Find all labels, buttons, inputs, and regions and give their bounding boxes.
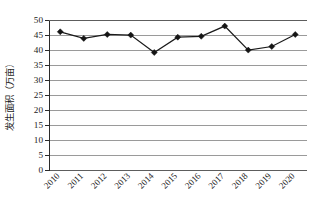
y-tick-label: 35 <box>34 60 44 70</box>
y-tick-label: 25 <box>34 90 44 100</box>
x-tick-label: 2015 <box>159 170 179 190</box>
data-point-marker <box>57 29 63 35</box>
x-tick-label: 2017 <box>206 170 226 190</box>
data-point-marker <box>198 33 204 39</box>
y-tick-label: 5 <box>38 150 43 160</box>
y-tick-label: 15 <box>34 120 44 130</box>
data-point-marker <box>269 44 275 50</box>
x-tick-label: 2018 <box>230 170 250 190</box>
y-tick-label: 40 <box>34 45 44 55</box>
gridlines-group <box>49 21 308 171</box>
y-tick-label: 10 <box>34 135 44 145</box>
x-tick-label: 2012 <box>89 171 109 191</box>
chart-canvas: 05101520253035404550 2010201120122013201… <box>0 0 313 204</box>
x-tick-label: 2019 <box>253 170 273 190</box>
x-tick-label: 2010 <box>42 170 62 190</box>
x-tick-label: 2013 <box>112 170 132 190</box>
ytick-labels-group: 05101520253035404550 <box>34 15 44 175</box>
y-tick-label: 20 <box>34 105 44 115</box>
y-axis-title: 发生面积（万亩） <box>4 59 15 131</box>
y-tick-label: 30 <box>34 75 44 85</box>
y-tick-label: 50 <box>34 15 44 25</box>
x-tick-label: 2016 <box>183 170 203 190</box>
x-tick-label: 2020 <box>277 170 297 190</box>
data-point-marker <box>292 32 298 38</box>
y-axis-title-group: 发生面积（万亩） <box>4 59 15 131</box>
data-point-marker <box>81 35 87 41</box>
x-tick-label: 2011 <box>66 171 86 191</box>
xtick-labels-group: 2010201120122013201420152016201720182019… <box>42 170 297 190</box>
data-point-marker <box>104 32 110 38</box>
x-tick-label: 2014 <box>136 170 156 190</box>
y-tick-label: 45 <box>34 30 44 40</box>
y-tick-label: 0 <box>38 165 43 175</box>
line-chart-figure: 05101520253035404550 2010201120122013201… <box>0 0 313 204</box>
